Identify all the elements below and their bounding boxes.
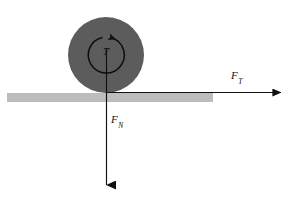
physics-force-diagram: T FT FN: [0, 0, 298, 208]
tangential-force-symbol: F: [231, 69, 238, 81]
normal-force-symbol: F: [111, 113, 118, 125]
normal-force-subscript: N: [118, 121, 123, 130]
tangential-force-label: FT: [231, 70, 242, 84]
surface-bar: [7, 93, 213, 102]
diagram-canvas: [0, 0, 298, 208]
torque-label: T: [103, 47, 109, 58]
normal-force-label: FN: [111, 114, 123, 128]
tangential-force-subscript: T: [238, 77, 242, 86]
